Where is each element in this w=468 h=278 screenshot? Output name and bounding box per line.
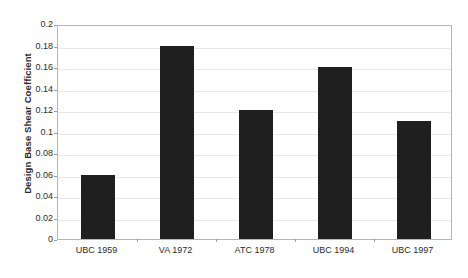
bar[interactable] [239,110,273,239]
x-tick-label: UBC 1997 [373,245,452,255]
x-tick-label: UBC 1994 [294,245,373,255]
bar[interactable] [160,46,194,240]
bars-layer [58,26,451,239]
bar-slot [216,26,295,239]
x-tick-mark [374,239,375,242]
bar-slot [137,26,216,239]
y-tick-mark [54,240,57,241]
bar[interactable] [318,67,352,239]
x-tick-mark [137,239,138,242]
x-tick-label: UBC 1959 [57,245,136,255]
bar[interactable] [81,175,115,240]
x-tick-mark [295,239,296,242]
bar[interactable] [397,121,431,239]
x-tick-mark [216,239,217,242]
bar-chart: Design Base Shear Coefficient 00.020.040… [0,0,468,278]
x-tick-label: VA 1972 [136,245,215,255]
bar-slot [58,26,137,239]
x-tick-label: ATC 1978 [215,245,294,255]
plot-area [57,25,452,240]
x-axis-tick-labels: UBC 1959VA 1972ATC 1978UBC 1994UBC 1997 [57,245,452,259]
y-axis-title: Design Base Shear Coefficient [22,9,33,239]
bar-slot [374,26,453,239]
bar-slot [295,26,374,239]
